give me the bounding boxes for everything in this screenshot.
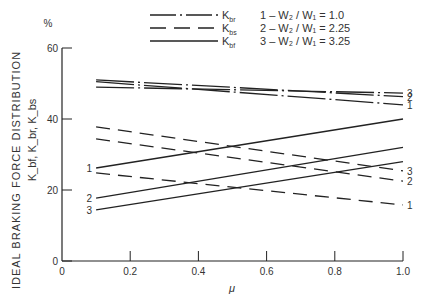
series-line <box>96 162 403 210</box>
series-label: 1 <box>407 200 413 211</box>
series-label: 3 <box>87 205 93 216</box>
braking-force-chart: 020406000.20.40.60.81.0 123123123 KbrKbs… <box>0 0 425 304</box>
x-tick-label: 0.4 <box>191 266 205 277</box>
legend-case: 1 – W₂ / W₁ = 1.0 <box>260 9 344 21</box>
legend-label: Kbs <box>222 22 237 36</box>
y-axis-sublabel: K_bf, K_br, K_bs <box>26 98 38 181</box>
legend-case: 3 – W₂ / W₁ = 3.25 <box>260 35 350 47</box>
legend-label: Kbr <box>222 9 236 23</box>
y-tick-label: 20 <box>47 185 59 196</box>
series-line <box>96 82 403 105</box>
y-tick-label: 40 <box>47 114 59 125</box>
series-label: 3 <box>407 166 413 177</box>
series-line <box>96 80 403 97</box>
legend-label: Kbf <box>222 35 235 49</box>
series-label: 2 <box>407 176 413 187</box>
series-label: 2 <box>87 193 93 204</box>
legend-case: 2 – W₂ / W₁ = 2.25 <box>260 22 350 34</box>
x-tick-label: 0 <box>59 266 65 277</box>
y-unit-label: % <box>44 18 53 29</box>
x-tick-label: 0.8 <box>328 266 342 277</box>
legend-subscript: br <box>229 16 236 23</box>
x-tick-label: 1.0 <box>396 266 410 277</box>
axes: 020406000.20.40.60.81.0 <box>47 43 411 277</box>
x-tick-label: 0.6 <box>260 266 274 277</box>
legend-subscript: bf <box>229 42 235 49</box>
y-tick-label: 0 <box>52 256 58 267</box>
series-label: 3 <box>407 88 413 99</box>
y-tick-label: 60 <box>47 43 59 54</box>
legend-subscript: bs <box>229 29 237 36</box>
series-line <box>96 173 403 205</box>
series-line <box>96 127 403 171</box>
legend: KbrKbsKbf1 – W₂ / W₁ = 1.02 – W₂ / W₁ = … <box>150 9 350 49</box>
y-axis-label: IDEAL BRAKING FORCE DISTRIBUTION <box>10 51 22 289</box>
x-tick-label: 0.2 <box>123 266 137 277</box>
series-line <box>96 147 403 198</box>
series-label: 1 <box>87 163 93 174</box>
x-axis-label: μ <box>228 282 235 294</box>
series-lines: 123123123 <box>87 80 413 216</box>
